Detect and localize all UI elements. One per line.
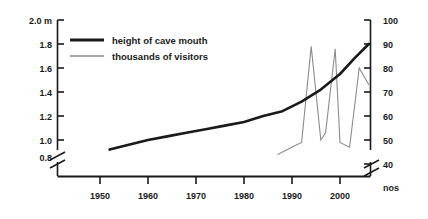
x-tick-label-1970: 1970: [186, 191, 206, 201]
y-right-tick-label-50: 50: [383, 136, 393, 146]
series-line-thousands-of-visitors: [278, 46, 369, 154]
y-left-tick-label-1.6: 1.6: [39, 64, 52, 74]
x-tick-label-1960: 1960: [138, 191, 158, 201]
y-left-tick-label-2.0: 2.0 m: [29, 16, 52, 26]
y-left-tick-label-1.8: 1.8: [39, 40, 52, 50]
x-tick-label-2000: 2000: [330, 191, 350, 201]
y-right-tick-label-90: 90: [383, 40, 393, 50]
y-left-tick-label-1.2: 1.2: [39, 112, 52, 122]
legend: height of cave mouth thousands of visito…: [70, 35, 208, 62]
y-right-axis-unit-label: nos: [383, 183, 399, 193]
cave-mouth-visitors-line-chart: 2.0 m 1.8 1.6 1.4 1.2 1.0 0.8 100 90 80 …: [0, 0, 428, 219]
y-right-tick-label-60: 60: [383, 112, 393, 122]
y-right-tick-label-100: 100: [383, 16, 398, 26]
legend-label-height-of-cave-mouth: height of cave mouth: [112, 35, 208, 46]
y-left-tick-label-1.0: 1.0: [39, 136, 52, 146]
y-right-tick-label-80: 80: [383, 64, 393, 74]
y-left-tick-label-1.4: 1.4: [39, 88, 52, 98]
x-axis: [58, 177, 371, 185]
chart-container: 2.0 m 1.8 1.6 1.4 1.2 1.0 0.8 100 90 80 …: [0, 0, 428, 219]
x-tick-label-1980: 1980: [234, 191, 254, 201]
right-axis-break-symbol: [364, 160, 379, 176]
x-tick-label-1990: 1990: [282, 191, 302, 201]
y-right-tick-label-40: 40: [383, 160, 393, 170]
x-tick-label-1950: 1950: [90, 191, 110, 201]
y-right-tick-label-70: 70: [383, 88, 393, 98]
y-left-tick-label-0.8: 0.8: [39, 153, 52, 163]
legend-label-thousands-of-visitors: thousands of visitors: [112, 51, 208, 62]
